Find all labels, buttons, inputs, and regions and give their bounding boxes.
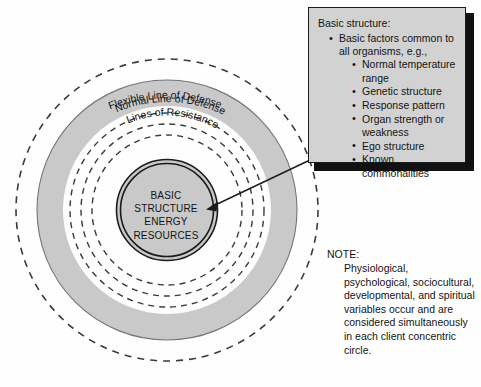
note-body: Physiological, psychological, sociocultu… [327, 262, 477, 357]
note-block: NOTE: Physiological, psychological, soci… [327, 247, 477, 357]
core-label-line-1: BASIC [117, 189, 215, 202]
callout-item-text: Basic factors common to all organisms, e… [339, 32, 454, 57]
diagram-canvas: Flexible Line of Defense Normal Line of … [0, 0, 481, 387]
callout-list-level-2: Normal temperature range Genetic structu… [339, 58, 457, 179]
callout-subitem: Genetic structure [352, 85, 457, 98]
core-label-line-4: RESOURCES [117, 229, 215, 242]
callout-list-level-1: Basic factors common to all organisms, e… [318, 32, 457, 180]
callout-item: Basic factors common to all organisms, e… [329, 32, 457, 180]
callout-subitem: Known commonalities [352, 153, 457, 179]
note-label: NOTE: [327, 247, 477, 261]
callout-title: Basic structure: [318, 17, 457, 30]
core-label: BASIC STRUCTURE ENERGY RESOURCES [117, 189, 215, 242]
callout-box: Basic structure: Basic factors common to… [308, 7, 466, 163]
callout-subitem: Response pattern [352, 99, 457, 112]
core-label-line-2: STRUCTURE [117, 202, 215, 215]
callout-subitem: Organ strength or weakness [352, 113, 457, 139]
callout-subitem: Ego structure [352, 140, 457, 153]
callout-subitem: Normal temperature range [352, 58, 457, 84]
core-label-line-3: ENERGY [117, 215, 215, 228]
